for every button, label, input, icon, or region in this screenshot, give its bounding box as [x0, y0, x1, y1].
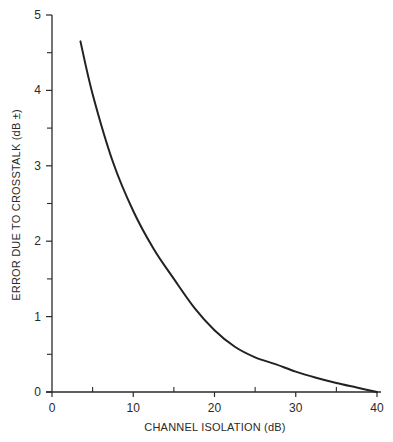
crosstalk-curve [80, 41, 377, 392]
y-tick-label: 3 [34, 159, 41, 173]
x-tick-label: 40 [370, 401, 384, 415]
y-tick-label: 4 [34, 83, 41, 97]
y-tick-label: 2 [34, 234, 41, 248]
y-tick-label: 0 [34, 385, 41, 399]
plot-area [80, 41, 377, 392]
y-axis-title: ERROR DUE TO CROSSTALK (dB ±) [10, 109, 22, 301]
y-tick-label: 5 [34, 8, 41, 22]
y-tick-label: 1 [34, 310, 41, 324]
crosstalk-chart: 012345010203040 CHANNEL ISOLATION (dB) E… [0, 0, 393, 442]
x-tick-label: 30 [289, 401, 303, 415]
x-tick-label: 10 [127, 401, 141, 415]
x-axis-title: CHANNEL ISOLATION (dB) [144, 421, 285, 433]
x-tick-label: 20 [208, 401, 222, 415]
x-tick-label: 0 [49, 401, 56, 415]
